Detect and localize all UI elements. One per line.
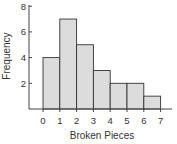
histogram-bar — [43, 58, 60, 109]
histogram-bar — [110, 83, 127, 109]
x-tick-label: 4 — [108, 115, 113, 126]
y-tick-label: 2 — [21, 78, 26, 89]
x-tick-label: 0 — [40, 115, 45, 126]
x-tick-label: 1 — [57, 115, 62, 126]
y-tick-label: 6 — [21, 26, 26, 37]
x-tick-label: 2 — [74, 115, 79, 126]
y-tick-label: 8 — [21, 1, 26, 12]
x-tick-label: 7 — [158, 115, 163, 126]
histogram-bar — [77, 45, 94, 109]
x-tick-label: 5 — [124, 115, 129, 126]
histogram-bar — [144, 96, 161, 109]
x-axis-label: Broken Pieces — [70, 130, 134, 141]
histogram-bar — [60, 19, 77, 109]
histogram-bar — [127, 83, 144, 109]
x-ticks: 01234567 — [40, 109, 163, 126]
x-tick-label: 6 — [141, 115, 146, 126]
histogram-chart: 2468 01234567 Broken Pieces Frequency — [0, 0, 177, 144]
bars-group — [43, 19, 161, 109]
y-tick-label: 4 — [21, 52, 26, 63]
y-axis-label: Frequency — [1, 32, 12, 79]
histogram-bar — [93, 70, 110, 109]
x-tick-label: 3 — [91, 115, 96, 126]
y-ticks: 2468 — [21, 1, 32, 89]
